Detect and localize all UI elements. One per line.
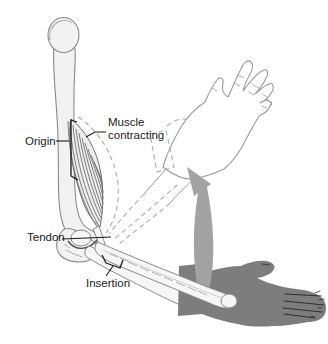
anatomy-figure: Origin Muscle contracting Tendon Inserti… xyxy=(0,0,328,344)
phantom-hand-outline xyxy=(163,61,273,179)
insertion-label: Insertion xyxy=(86,277,130,290)
muscle-contracting-label-line1: Muscle xyxy=(108,116,164,129)
humerus-head xyxy=(48,18,79,53)
origin-label: Origin xyxy=(25,135,56,148)
radius-bone-head xyxy=(221,294,237,308)
phantom-forearm-lines xyxy=(109,168,194,245)
muscle-contracting-label: Muscle contracting xyxy=(108,116,164,142)
muscle-leader-line xyxy=(86,132,106,137)
anatomy-diagram xyxy=(0,0,328,344)
muscle-contracting-label-line2: contracting xyxy=(108,129,164,142)
tendon-label: Tendon xyxy=(27,231,65,244)
